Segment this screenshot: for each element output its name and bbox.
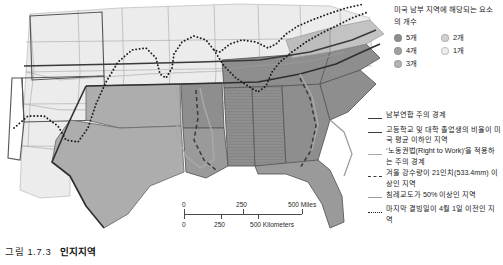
legend-line-symbol-winter-precip [368,172,382,182]
legend-counts-grid: 5개 4개 3개 2개 1개 [394,31,503,70]
legend-counts-title: 미국 남부 지역에 해당되는 요소의 개수 [394,4,498,27]
legend-count-item-1[interactable]: 1개 [441,44,464,57]
legend-count-label-1: 1개 [453,47,464,54]
figure-cognitive-region: 0 250 500 Miles 0 250 500 Kilometers 미국 … [0,0,503,265]
legend-line-label-last-frost: 마지막 결빙일이 4월 1일 이전인 지역 [386,204,501,225]
legend-line-symbol-last-frost [368,208,382,218]
legend-line-item-confederacy[interactable]: 남부연합 주의 경계 [368,110,503,124]
scale-label-mi-500: 500 Miles [288,202,316,209]
legend-counts: 미국 남부 지역에 해당되는 요소의 개수 5개 4개 3개 [394,4,503,70]
scale-label-mi-250: 250 [236,202,247,209]
legend-swatch-circle-5 [394,34,402,42]
legend-line-item-baptist[interactable]: 침례교도가 50% 이상인 지역 [368,190,503,204]
legend-counts-left-column: 5개 4개 3개 [394,31,441,70]
legend-swatch-circle-2 [441,34,449,42]
scale-tick-mi-250 [243,209,244,214]
legend-count-item-4[interactable]: 4개 [394,44,441,57]
legend-line-label-right-to-work: ‘노동권법(Right to Work)’을 적용하는 주의 경계 [386,146,501,167]
legend-lines: 남부연합 주의 경계 고등학교 및 대학 졸업생의 비율이 미국 평균 이하인 … [368,110,503,226]
legend-count-item-2[interactable]: 2개 [441,31,464,44]
figure-caption: 그림 1.7.3 인지지역 [5,244,96,258]
scale-label-km-0: 0 [182,222,186,229]
legend-swatch-circle-4 [394,47,402,55]
map-scale-bar: 0 250 500 Miles 0 250 500 Kilometers [178,199,313,237]
legend-count-item-5[interactable]: 5개 [394,31,441,44]
legend-line-symbol-education [368,128,382,138]
scale-tick-mi-500 [302,209,303,214]
legend-swatch-circle-3 [394,60,402,68]
legend-line-label-baptist: 침례교도가 50% 이상인 지역 [386,190,501,200]
legend-line-item-right-to-work[interactable]: ‘노동권법(Right to Work)’을 적용하는 주의 경계 [368,146,503,167]
legend-count-item-3[interactable]: 3개 [394,57,441,70]
legend-line-label-confederacy: 남부연합 주의 경계 [386,110,501,120]
scale-label-km-500: 500 Kilometers [250,222,294,229]
legend-swatch-circle-1 [441,47,449,55]
scale-tick-km-250 [221,214,222,219]
legend-line-item-education[interactable]: 고등학교 및 대학 졸업생의 비율이 미국 평균 이하인 지역 [368,125,503,146]
legend-count-label-2: 2개 [453,34,464,41]
legend-line-symbol-confederacy [368,114,382,124]
scale-tick-km-500 [258,214,259,219]
scale-label-km-250: 250 [214,222,225,229]
legend-count-label-3: 3개 [406,60,417,67]
legend-line-symbol-right-to-work [368,150,382,160]
legend-count-label-4: 4개 [406,47,417,54]
caption-number: 그림 1.7.3 [5,244,51,258]
legend-line-item-winter-precip[interactable]: 겨울 강수량이 21인치(533.4mm) 이상인 지역 [368,168,503,189]
legend-line-label-education: 고등학교 및 대학 졸업생의 비율이 미국 평균 이하인 지역 [386,125,501,146]
legend-line-label-winter-precip: 겨울 강수량이 21인치(533.4mm) 이상인 지역 [386,168,501,189]
scale-bar-line [184,214,302,215]
legend-line-symbol-baptist [368,193,382,203]
scale-label-mi-0: 0 [182,202,186,209]
legend-count-label-5: 5개 [406,34,417,41]
caption-title: 인지지역 [60,244,96,258]
legend-line-item-last-frost[interactable]: 마지막 결빙일이 4월 1일 이전인 지역 [368,204,503,225]
legend-counts-right-column: 2개 1개 [441,31,464,70]
scale-tick-km-0 [184,214,185,219]
